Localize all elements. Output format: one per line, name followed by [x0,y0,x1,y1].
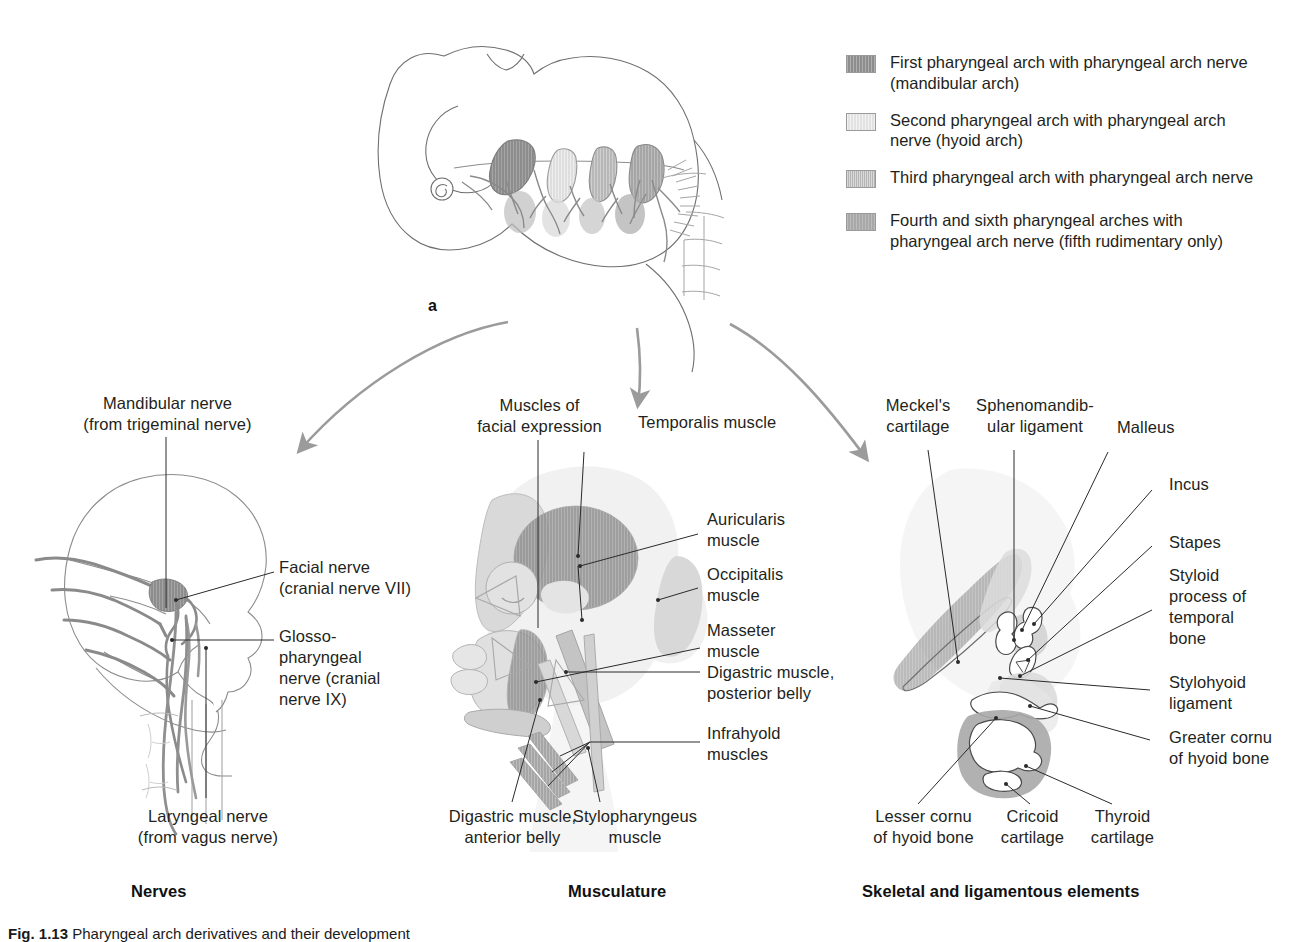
stylopharyngeus-shape [584,634,604,792]
larynx-block-shape [957,710,1051,798]
heading-nerves: Nerves [131,882,187,901]
cricoid-cartilage-shape [983,771,1021,791]
styloid-process-shape [999,672,1057,720]
nerves-leader-dots [170,598,208,650]
nerves-illustration [36,437,274,834]
legend-label-third-arch: Third pharyngeal arch with pharyngeal ar… [890,167,1253,188]
thyroid-cartilage-shape [970,720,1042,773]
occipitalis-shape [654,556,703,657]
incus-shape [1014,607,1042,648]
label-masseter-muscle: Masseter muscle [707,620,847,662]
label-auricularis-muscle: Auricularis muscle [707,509,847,551]
arrow-to-skeletal [730,324,866,458]
label-sphenomandibular-ligament: Sphenomandib- ular ligament [955,395,1115,437]
label-occipitalis-muscle: Occipitalis muscle [707,564,847,606]
sphenomandibular-shape [979,549,1031,633]
arrow-to-musculature [637,328,640,404]
skeletal-leader-lines [918,450,1152,804]
label-greater-cornu: Greater cornu of hyoid bone [1169,727,1299,769]
skeletal-illustration [894,450,1153,804]
stapes-shape [1010,646,1036,678]
legend-item-fourth-sixth-arch: Fourth and sixth pharyngeal arches with … [846,210,1266,252]
musculature-illustration [451,440,708,852]
first-arch-swatch-icon [846,55,876,73]
label-styloid-process: Styloid process of temporal bone [1169,565,1284,649]
temporalis-shape [514,506,638,610]
caption-body: Pharyngeal arch derivatives and their de… [72,925,410,942]
digastric-posterior-shape [556,630,614,750]
legend-label-first-arch: First pharyngeal arch with pharyngeal ar… [890,52,1248,94]
figure-caption: Fig. 1.13 Pharyngeal arch derivatives an… [8,925,410,942]
infrahyoid-shapes [510,732,578,810]
legend-item-second-arch: Second pharyngeal arch with pharyngeal a… [846,110,1266,152]
hyoid-bone-shape [971,692,1058,719]
label-mandibular-nerve: Mandibular nerve (from trigeminal nerve) [40,393,295,435]
label-thyroid-cartilage: Thyroid cartilage [1075,806,1170,848]
label-malleus: Malleus [1117,417,1227,438]
label-cricoid-cartilage: Cricoid cartilage [985,806,1080,848]
third-arch-swatch-icon [846,170,876,188]
legend-item-first-arch: First pharyngeal arch with pharyngeal ar… [846,52,1266,94]
masseter-shape [507,630,548,720]
musculature-leader-dots [534,554,660,750]
label-facial-nerve: Facial nerve (cranial nerve VII) [279,557,459,599]
heading-skeletal: Skeletal and ligamentous elements [862,882,1139,901]
meckel-cartilage-shape [894,554,1023,690]
flow-arrows [300,322,866,458]
legend-item-third-arch: Third pharyngeal arch with pharyngeal ar… [846,167,1266,188]
label-lesser-cornu: Lesser cornu of hyoid bone [856,806,991,848]
label-temporalis-muscle: Temporalis muscle [638,412,838,433]
legend: First pharyngeal arch with pharyngeal ar… [846,52,1266,268]
skeletal-leader-dots [956,622,1036,786]
label-laryngeal-nerve: Laryngeal nerve (from vagus nerve) [88,806,328,848]
label-glossopharyngeal-nerve: Glosso- pharyngeal nerve (cranial nerve … [279,626,429,710]
legend-label-fourth-sixth-arch: Fourth and sixth pharyngeal arches with … [890,210,1223,252]
caption-number: Fig. 1.13 [8,925,68,942]
legend-label-second-arch: Second pharyngeal arch with pharyngeal a… [890,110,1226,152]
label-infrahyoid-muscles: Infrahyold muscles [707,723,857,765]
label-incus: Incus [1169,474,1279,495]
facial-expression-shape [475,494,548,632]
label-muscles-facial-expression: Muscles of facial expression [452,395,627,437]
digastric-anterior-shape [464,709,550,737]
embryo-diagram [378,47,724,372]
label-stapes: Stapes [1169,532,1279,553]
label-stylohyoid-ligament: Stylohyoid ligament [1169,672,1284,714]
heading-musculature: Musculature [568,882,666,901]
stylohyoid-shape [987,679,1058,735]
auricularis-shape [541,581,589,614]
label-stylopharyngeus-muscle: Stylopharyngeus muscle [540,806,730,848]
fourth-sixth-arch-swatch-icon [846,213,876,231]
panel-letter-a: a [428,297,437,315]
musculature-leader-lines [512,440,700,802]
label-digastric-posterior-belly: Digastric muscle, posterior belly [707,662,887,704]
second-arch-swatch-icon [846,113,876,131]
nerves-leader-lines [166,437,274,798]
malleus-shape [996,612,1017,655]
